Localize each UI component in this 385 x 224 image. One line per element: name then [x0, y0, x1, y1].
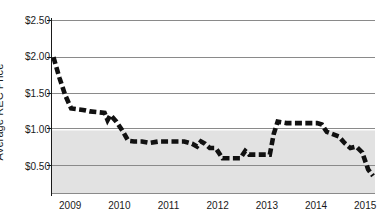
x-tick-label: 2012	[207, 201, 229, 211]
x-axis-tick-labels: 2009201020112012201320142015	[0, 0, 385, 224]
x-tick-label: 2010	[108, 201, 130, 211]
rec-price-line-chart: $2.50$2.00$1.50$1.00$0.50 20092010201120…	[0, 0, 385, 224]
x-tick-label: 2011	[158, 201, 180, 211]
x-tick-label: 2009	[59, 201, 81, 211]
x-tick-label: 2013	[256, 201, 278, 211]
x-tick-label: 2014	[305, 201, 327, 211]
x-tick-label: 2015	[354, 201, 376, 211]
